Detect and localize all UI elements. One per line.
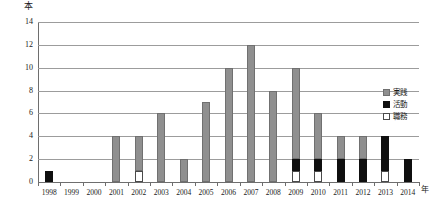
- x-tick-label-2000: 2000: [83, 189, 105, 197]
- bar-segment-実践-2009: [292, 68, 300, 159]
- bar-segment-活動-2014: [404, 159, 412, 182]
- chart-legend: 実践 活動 職務: [383, 86, 439, 122]
- bar-segment-実践-2011: [337, 136, 345, 159]
- legend-item-shokumu: 職務: [383, 110, 439, 122]
- bar-2001: [112, 136, 120, 182]
- x-tick-mark-1998: [38, 182, 39, 186]
- bar-2014: [404, 159, 412, 182]
- bar-2002: [135, 136, 143, 182]
- bar-segment-実践-2004: [180, 159, 188, 182]
- y-tick-label-8: 8: [7, 87, 33, 95]
- x-tick-mark-2005: [195, 182, 196, 186]
- bar-segment-実践-2001: [112, 136, 120, 182]
- x-tick-label-2011: 2011: [329, 189, 351, 197]
- x-tick-mark-2000: [83, 182, 84, 186]
- bar-2009: [292, 68, 300, 182]
- x-tick-label-2001: 2001: [105, 189, 127, 197]
- x-tick-label-2002: 2002: [128, 189, 150, 197]
- bar-segment-実践-2008: [269, 91, 277, 182]
- y-tick-label-12: 12: [7, 41, 33, 49]
- x-tick-mark-1999: [60, 182, 61, 186]
- gridline-0: [38, 182, 419, 183]
- bar-segment-職務-2010: [314, 171, 322, 182]
- x-tick-mark-2010: [307, 182, 308, 186]
- bar-2005: [202, 102, 210, 182]
- y-tick-label-2: 2: [7, 155, 33, 163]
- legend-label-shokumu: 職務: [393, 111, 407, 122]
- bar-2008: [269, 91, 277, 182]
- y-axis-unit-label: 本: [24, 2, 33, 11]
- x-tick-label-2012: 2012: [352, 189, 374, 197]
- bar-segment-職務-2013: [381, 171, 389, 182]
- x-tick-label-2005: 2005: [195, 189, 217, 197]
- legend-label-jissen: 実践: [393, 87, 407, 98]
- bar-2007: [247, 45, 255, 182]
- bar-chart: 本 02468101214 19981999200020012002200320…: [0, 0, 441, 213]
- bar-segment-実践-2012: [359, 136, 367, 159]
- bar-2006: [225, 68, 233, 182]
- x-tick-mark-2001: [105, 182, 106, 186]
- x-tick-label-2004: 2004: [172, 189, 194, 197]
- black-swatch-icon: [383, 101, 390, 108]
- bar-1998: [45, 171, 53, 182]
- x-tick-label-2006: 2006: [217, 189, 239, 197]
- bar-2003: [157, 113, 165, 182]
- x-tick-label-2008: 2008: [262, 189, 284, 197]
- gray-swatch-icon: [383, 89, 390, 96]
- x-tick-mark-2002: [128, 182, 129, 186]
- y-tick-label-14: 14: [7, 18, 33, 26]
- bar-segment-活動-2009: [292, 159, 300, 170]
- bar-2011: [337, 136, 345, 182]
- x-tick-mark-2012: [352, 182, 353, 186]
- x-tick-label-2009: 2009: [285, 189, 307, 197]
- x-tick-mark-2007: [240, 182, 241, 186]
- y-tick-label-10: 10: [7, 64, 33, 72]
- legend-item-katsudo: 活動: [383, 98, 439, 110]
- x-tick-mark-2004: [172, 182, 173, 186]
- x-tick-label-1999: 1999: [60, 189, 82, 197]
- gridline-12: [38, 45, 419, 46]
- white-swatch-icon: [383, 113, 390, 120]
- bar-segment-活動-2011: [337, 159, 345, 182]
- x-tick-mark-2014: [397, 182, 398, 186]
- x-tick-mark-2013: [374, 182, 375, 186]
- x-tick-label-1998: 1998: [38, 189, 60, 197]
- x-tick-mark-2009: [285, 182, 286, 186]
- bar-segment-活動-2010: [314, 159, 322, 170]
- x-tick-mark-end: [419, 182, 420, 186]
- x-axis-title: 年: [421, 186, 429, 194]
- bar-segment-実践-2007: [247, 45, 255, 182]
- bar-2010: [314, 113, 322, 182]
- x-tick-mark-2006: [217, 182, 218, 186]
- bar-segment-活動-1998: [45, 171, 53, 182]
- x-tick-mark-2008: [262, 182, 263, 186]
- x-tick-label-2003: 2003: [150, 189, 172, 197]
- x-tick-label-2013: 2013: [374, 189, 396, 197]
- bar-segment-実践-2010: [314, 113, 322, 159]
- bar-segment-実践-2002: [135, 136, 143, 170]
- x-tick-label-2007: 2007: [240, 189, 262, 197]
- bar-segment-実践-2005: [202, 102, 210, 182]
- y-tick-label-0: 0: [7, 178, 33, 186]
- bar-segment-活動-2013: [381, 136, 389, 170]
- x-tick-mark-2003: [150, 182, 151, 186]
- bar-segment-実践-2003: [157, 113, 165, 182]
- bar-2013: [381, 136, 389, 182]
- bar-2012: [359, 136, 367, 182]
- gridline-14: [38, 22, 419, 23]
- y-tick-label-4: 4: [7, 132, 33, 140]
- x-tick-mark-2011: [329, 182, 330, 186]
- bar-segment-職務-2009: [292, 171, 300, 182]
- legend-item-jissen: 実践: [383, 86, 439, 98]
- legend-label-katsudo: 活動: [393, 99, 407, 110]
- bar-2004: [180, 159, 188, 182]
- x-tick-label-2014: 2014: [397, 189, 419, 197]
- x-tick-label-2010: 2010: [307, 189, 329, 197]
- bar-segment-活動-2012: [359, 159, 367, 182]
- bar-segment-実践-2006: [225, 68, 233, 182]
- y-tick-label-6: 6: [7, 109, 33, 117]
- bar-segment-職務-2002: [135, 171, 143, 182]
